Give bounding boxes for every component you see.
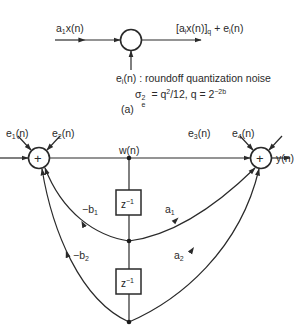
coef-a2: a2 (174, 250, 184, 262)
noise-description: ei(n) : roundoff quantization noise (116, 73, 271, 85)
e4-label: e4(n) (232, 128, 255, 140)
a1-branch (129, 168, 255, 241)
coef-a1: a1 (165, 204, 175, 216)
e1-label: e1(n) (6, 128, 29, 140)
quantizer-model (55, 30, 201, 71)
e4-arrow (269, 136, 282, 150)
coef-neg-b2: −b2 (73, 250, 89, 262)
figure-caption-a: (a) (121, 104, 134, 115)
w-node-dot (127, 156, 132, 161)
delay-label-2: z−1 (121, 277, 134, 289)
input-label: a1x(n) (56, 23, 84, 35)
e2-label: e2(n) (52, 128, 75, 140)
left-adder-symbol: + (34, 152, 42, 165)
output-label: [aix(n)]q + ei(n) (176, 23, 243, 35)
quantizer-node (121, 30, 142, 51)
middle-node-dot (127, 239, 132, 244)
second-order-section (0, 136, 290, 322)
output-y-label: y(n) (276, 153, 294, 164)
a2-branch (129, 169, 259, 322)
bottom-node-dot (127, 320, 132, 325)
e3-label: e3(n) (188, 128, 211, 140)
w-node-label: w(n) (119, 145, 139, 156)
right-adder-symbol: + (256, 152, 264, 165)
coef-neg-b1: −b1 (82, 204, 98, 216)
delay-label-1: z−1 (121, 198, 134, 210)
noise-variance-formula: σ2e = q2/12, q = 2−2b (135, 88, 226, 100)
